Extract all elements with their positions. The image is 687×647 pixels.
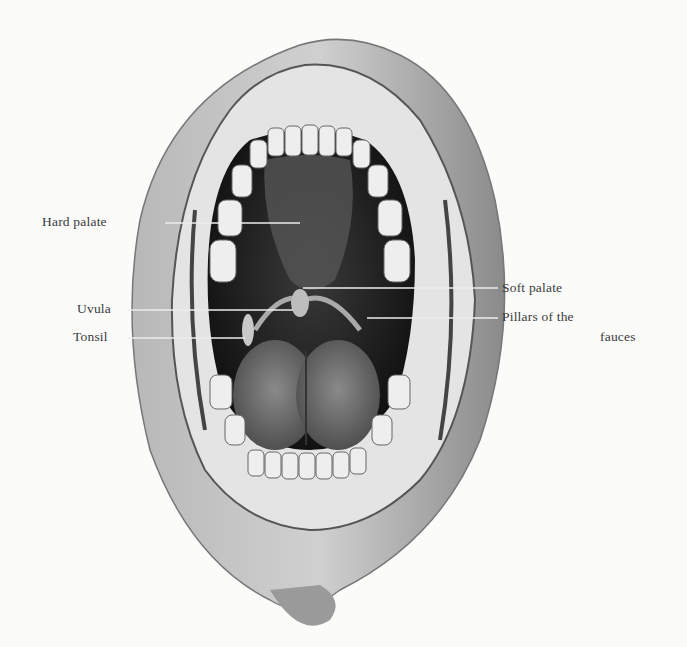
label-pillars-line2: fauces xyxy=(600,329,636,345)
mouth-anatomy-illustration xyxy=(0,0,687,647)
label-tonsil: Tonsil xyxy=(73,329,108,345)
label-pillars-line1: Pillars of the xyxy=(502,309,574,325)
label-hard-palate: Hard palate xyxy=(42,214,107,230)
label-uvula: Uvula xyxy=(77,301,111,317)
label-soft-palate: Soft palate xyxy=(502,280,562,296)
tonsil xyxy=(242,314,254,346)
uvula xyxy=(291,289,309,317)
tongue xyxy=(233,340,380,450)
